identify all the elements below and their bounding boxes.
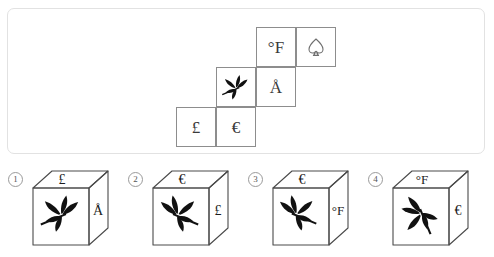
net-cell-angstrom: Å	[256, 67, 296, 107]
option-number-2: 2	[128, 172, 143, 187]
euro-icon: €	[232, 119, 241, 136]
leaf-sprig-icon	[219, 72, 253, 102]
answer-option-3[interactable]: 3 € °F	[244, 163, 364, 257]
cube-option-4: °F €	[386, 167, 478, 253]
cube-1-top-label: £	[59, 172, 66, 187]
option-number-4: 4	[368, 172, 383, 187]
option-number-1: 1	[8, 172, 23, 187]
cube-2-front-leaf-icon	[161, 195, 199, 231]
cube-3-right-label: °F	[332, 203, 344, 218]
net-cell-euro: €	[216, 107, 256, 147]
net-cell-leaf	[216, 67, 256, 107]
cube-2-right-label: £	[215, 203, 222, 218]
cube-net-panel: °F	[7, 8, 485, 154]
cube-2-top-label: €	[179, 172, 186, 187]
angstrom-icon: Å	[270, 79, 282, 96]
answer-options: 1 £ Å	[0, 163, 494, 257]
answer-option-2[interactable]: 2 € £	[124, 163, 244, 257]
degree-fahrenheit-icon: °F	[268, 39, 284, 56]
cube-4-front-leaf-icon	[401, 197, 437, 235]
option-number-3: 3	[248, 172, 263, 187]
cube-1-right-label: Å	[93, 203, 104, 218]
cube-1-front-leaf-icon	[40, 195, 78, 231]
answer-option-1[interactable]: 1 £ Å	[4, 163, 124, 257]
cube-3-front-leaf-icon	[280, 195, 317, 230]
cube-option-2: € £	[146, 167, 238, 253]
cube-4-right-label: €	[455, 203, 462, 218]
cube-3-top-label: €	[299, 172, 306, 187]
pound-sterling-icon: £	[192, 119, 201, 136]
net-cell-spade	[296, 27, 336, 67]
answer-option-4[interactable]: 4 °F €	[364, 163, 484, 257]
cube-4-top-label: °F	[416, 172, 428, 187]
cube-option-1: £ Å	[26, 167, 118, 253]
net-cell-fahrenheit: °F	[256, 27, 296, 67]
spade-outline-icon	[306, 36, 326, 58]
cube-net: °F	[176, 21, 336, 143]
cube-option-3: € °F	[266, 167, 358, 253]
net-cell-pound: £	[176, 107, 216, 147]
